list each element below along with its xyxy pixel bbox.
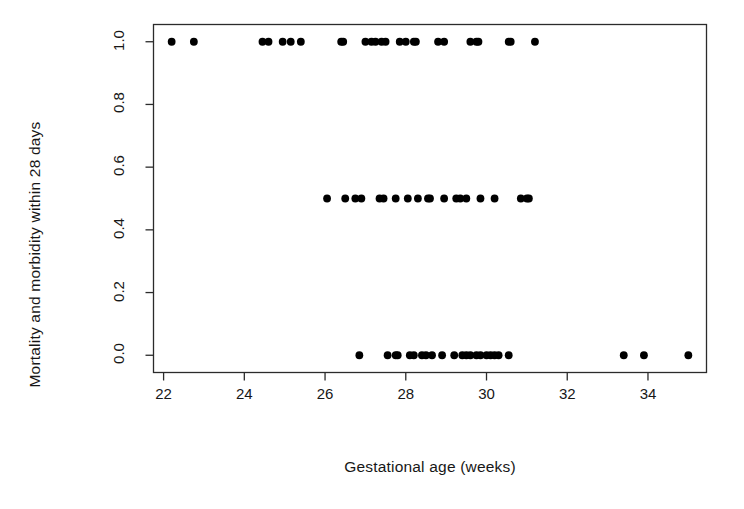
data-series [323,195,533,203]
y-axis-ticks [146,42,154,356]
data-point [168,38,176,46]
x-tick-label: 26 [305,385,345,402]
x-tick-label: 30 [467,385,507,402]
chart-figure: Mortality and morbidity within 28 days G… [0,0,744,509]
y-tick-label: 0.8 [110,81,127,125]
x-tick-label: 24 [224,385,264,402]
data-point [287,38,295,46]
data-point [279,38,287,46]
data-point [190,38,198,46]
data-point [684,351,692,359]
x-tick-label: 28 [386,385,426,402]
data-series [168,38,539,46]
data-point [394,351,402,359]
data-point [357,195,365,203]
y-tick-label: 0.0 [110,332,127,376]
data-point [640,351,648,359]
data-point [355,351,363,359]
data-point [525,195,533,203]
data-point [475,38,483,46]
plot-canvas [0,0,744,509]
data-point [495,351,503,359]
data-point [426,195,434,203]
data-point [462,195,470,203]
data-point [507,38,515,46]
data-point [505,351,513,359]
data-point [428,351,436,359]
x-tick-label: 32 [547,385,587,402]
data-point [440,195,448,203]
data-point [402,38,410,46]
data-point [323,195,331,203]
data-point [297,38,305,46]
data-point [620,351,628,359]
data-point [414,195,422,203]
x-tick-label: 34 [628,385,668,402]
data-point [477,195,485,203]
y-tick-label: 1.0 [110,18,127,62]
data-point [491,195,499,203]
data-points [168,38,692,359]
y-tick-label: 0.2 [110,269,127,313]
data-point [339,38,347,46]
x-axis-ticks [164,373,648,381]
data-series [355,351,692,359]
data-point [531,38,539,46]
data-point [404,195,412,203]
y-tick-label: 0.6 [110,144,127,188]
data-point [392,195,400,203]
data-point [380,195,388,203]
x-tick-label: 22 [144,385,184,402]
data-point [412,38,420,46]
data-point [382,38,390,46]
y-tick-label: 0.4 [110,206,127,250]
data-point [265,38,273,46]
data-point [438,351,446,359]
data-point [410,351,418,359]
data-point [384,351,392,359]
data-point [450,351,458,359]
data-point [440,38,448,46]
data-point [341,195,349,203]
